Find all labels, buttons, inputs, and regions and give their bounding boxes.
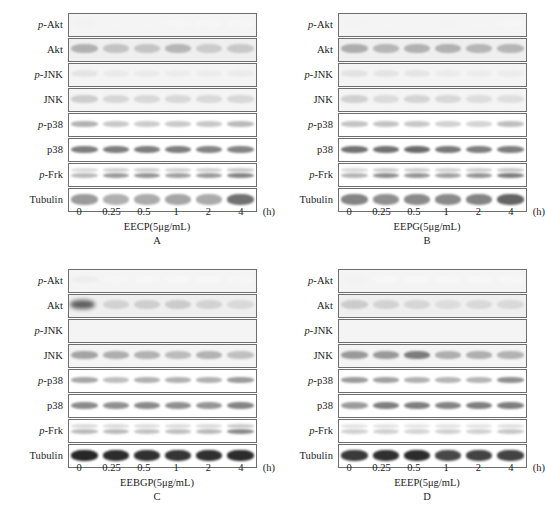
blot-band bbox=[196, 402, 222, 409]
blot-band bbox=[497, 300, 523, 309]
blot-band bbox=[341, 70, 367, 77]
blot-lane-group bbox=[339, 345, 526, 367]
blot-band bbox=[404, 121, 430, 127]
blot-band bbox=[404, 194, 430, 205]
blot-band bbox=[165, 377, 191, 383]
blot-band bbox=[435, 121, 461, 127]
blot-lane bbox=[433, 270, 464, 292]
blot-band bbox=[103, 276, 129, 283]
blot-row-label-pakt: p-Akt bbox=[284, 20, 338, 31]
blot-lane bbox=[225, 270, 256, 292]
blot-band bbox=[103, 146, 129, 153]
blot-strip bbox=[338, 113, 527, 137]
blot-row: p38 bbox=[14, 139, 257, 161]
blot-row: p-Akt bbox=[14, 270, 257, 292]
blot-row-label-tubulin: Tubulin bbox=[284, 195, 338, 206]
blot-lane bbox=[370, 320, 401, 342]
blot-band bbox=[196, 20, 222, 27]
blot-band bbox=[497, 173, 523, 178]
blot-band bbox=[497, 351, 523, 359]
blot-row: p38 bbox=[284, 395, 527, 417]
blot-band-upper bbox=[103, 424, 129, 428]
blot-band bbox=[466, 377, 492, 383]
blot-row-label-pp38: p-p38 bbox=[14, 120, 68, 131]
time-tick-label: 0.25 bbox=[95, 205, 127, 219]
blot-row-label-pp38: p-p38 bbox=[284, 120, 338, 131]
blot-band bbox=[373, 450, 399, 461]
blot-lane bbox=[225, 370, 256, 392]
blot-band bbox=[404, 402, 430, 409]
blot-band bbox=[373, 276, 399, 283]
blot-lane bbox=[339, 39, 370, 61]
blot-band bbox=[227, 351, 253, 359]
blot-band bbox=[103, 44, 129, 53]
blot-lane bbox=[225, 295, 256, 317]
blot-lane bbox=[464, 320, 495, 342]
blot-band bbox=[103, 429, 129, 434]
blot-strip bbox=[68, 63, 257, 87]
panel-treatment-label: EECP(5μg/mL) bbox=[63, 219, 257, 234]
blot-band bbox=[404, 377, 430, 383]
blot-lane bbox=[401, 420, 432, 442]
blot-band-upper bbox=[497, 168, 523, 172]
blot-lane bbox=[69, 39, 100, 61]
blot-lane bbox=[495, 395, 526, 417]
blot-band bbox=[103, 402, 129, 409]
blot-lane bbox=[401, 164, 432, 186]
blot-lane bbox=[433, 420, 464, 442]
blot-band-upper bbox=[196, 168, 222, 172]
time-tick-label: 0.25 bbox=[95, 461, 127, 475]
blot-lane bbox=[339, 320, 370, 342]
blot-lane-group bbox=[339, 64, 526, 86]
blot-band bbox=[165, 300, 191, 309]
blot-lane bbox=[339, 345, 370, 367]
blot-band bbox=[341, 194, 367, 205]
blot-lane bbox=[433, 114, 464, 136]
blot-lane bbox=[464, 420, 495, 442]
blot-band bbox=[227, 173, 253, 178]
blot-band bbox=[165, 44, 191, 53]
time-unit-label: (h) bbox=[533, 205, 545, 219]
blot-lane bbox=[339, 395, 370, 417]
blot-band bbox=[435, 70, 461, 77]
time-tick-label: 1 bbox=[430, 205, 462, 219]
blot-lane bbox=[194, 14, 225, 36]
blot-band bbox=[341, 429, 367, 434]
blot-row-label-jnk: JNK bbox=[14, 351, 68, 362]
blot-band bbox=[196, 429, 222, 434]
blot-band bbox=[196, 377, 222, 383]
blot-band bbox=[497, 194, 523, 205]
blot-lane bbox=[339, 370, 370, 392]
blot-row-label-p38: p38 bbox=[284, 401, 338, 412]
blot-band bbox=[373, 70, 399, 77]
blot-band bbox=[497, 146, 523, 153]
blot-band bbox=[373, 402, 399, 409]
blot-lane bbox=[370, 395, 401, 417]
blot-band bbox=[373, 20, 399, 27]
blot-lane bbox=[433, 89, 464, 111]
blot-band bbox=[196, 300, 222, 309]
blot-band bbox=[134, 121, 160, 127]
blot-band-upper bbox=[341, 424, 367, 428]
blot-lane bbox=[131, 345, 162, 367]
blot-lane bbox=[495, 370, 526, 392]
blot-lane bbox=[401, 345, 432, 367]
blot-row: p-p38 bbox=[14, 114, 257, 136]
blot-lane-group bbox=[69, 114, 256, 136]
blot-band-upper bbox=[466, 168, 492, 172]
blot-band bbox=[435, 450, 461, 461]
blot-band bbox=[165, 402, 191, 409]
blot-band bbox=[196, 276, 222, 283]
blot-band-upper bbox=[373, 168, 399, 172]
blot-band bbox=[373, 44, 399, 53]
blot-lane bbox=[464, 164, 495, 186]
blot-row-label-jnk: JNK bbox=[284, 95, 338, 106]
blot-lane bbox=[69, 164, 100, 186]
blot-band bbox=[227, 429, 253, 434]
time-tick-row: 00.250.5124(h) bbox=[333, 205, 527, 219]
blot-lane bbox=[401, 139, 432, 161]
blot-lane bbox=[225, 89, 256, 111]
blot-band bbox=[435, 173, 461, 178]
blot-band bbox=[71, 351, 97, 359]
blot-lane bbox=[69, 320, 100, 342]
